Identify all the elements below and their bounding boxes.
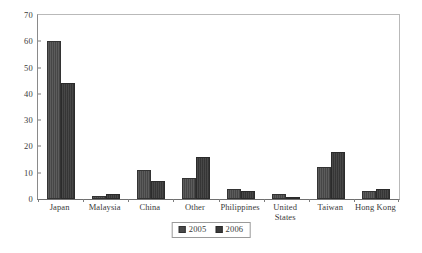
- bar-2006-united-states: [286, 197, 300, 199]
- x-axis-label-other: Other: [185, 203, 205, 213]
- legend-swatch-icon: [179, 226, 186, 233]
- x-axis-label-hong-kong: Hong Kong: [355, 203, 396, 213]
- legend-label: 2005: [189, 225, 207, 234]
- bar-2006-other: [196, 157, 210, 199]
- x-axis-tick-mark: [38, 199, 39, 202]
- x-axis-label-taiwan: Taiwan: [318, 203, 344, 213]
- bar-2005-hong-kong: [362, 191, 376, 199]
- x-axis-tick-mark: [128, 199, 129, 202]
- x-axis-tick-mark: [173, 199, 174, 202]
- bar-chart: 010203040506070 JapanMalaysiaChinaOtherP…: [0, 0, 422, 253]
- y-axis-tick-label: 60: [24, 37, 38, 46]
- x-axis-tick-mark: [398, 199, 399, 202]
- y-axis-tick-label: 10: [24, 168, 38, 177]
- y-axis-tick-label: 30: [24, 116, 38, 125]
- bar-2006-malaysia: [106, 194, 120, 199]
- x-axis-tick-mark: [83, 199, 84, 202]
- y-axis-tick-label: 50: [24, 63, 38, 72]
- x-axis-label-malaysia: Malaysia: [89, 203, 121, 213]
- x-axis-tick-mark: [219, 199, 220, 202]
- x-axis-label-philippines: Philippines: [220, 203, 259, 213]
- bar-2005-philippines: [227, 189, 241, 200]
- bar-2006-hong-kong: [376, 189, 390, 200]
- bar-2005-japan: [47, 41, 61, 199]
- x-axis-label-japan: Japan: [50, 203, 70, 213]
- legend-swatch-icon: [216, 226, 223, 233]
- legend-entry-2005[interactable]: 2005: [179, 225, 207, 234]
- x-axis-label-united-states: United States: [273, 203, 297, 222]
- bar-2006-philippines: [241, 191, 255, 199]
- bar-2005-malaysia: [92, 196, 106, 199]
- x-axis-tick-mark: [264, 199, 265, 202]
- bar-2005-taiwan: [317, 167, 331, 199]
- legend-entry-2006[interactable]: 2006: [216, 225, 244, 234]
- bars-layer: [38, 15, 399, 199]
- legend-label: 2006: [226, 225, 244, 234]
- y-axis-tick-label: 20: [24, 142, 38, 151]
- bar-2006-japan: [61, 83, 75, 199]
- chart-legend: 20052006: [172, 222, 251, 238]
- bar-2005-united-states: [272, 194, 286, 199]
- x-axis-tick-mark: [309, 199, 310, 202]
- plot-area: 010203040506070: [37, 14, 400, 200]
- bar-2006-china: [151, 181, 165, 199]
- x-axis-label-china: China: [139, 203, 160, 213]
- y-axis-tick-label: 70: [24, 11, 38, 20]
- bar-2005-china: [137, 170, 151, 199]
- bar-2005-other: [182, 178, 196, 199]
- bar-2006-taiwan: [331, 152, 345, 199]
- y-axis-tick-label: 0: [29, 195, 38, 204]
- y-axis-tick-label: 40: [24, 90, 38, 99]
